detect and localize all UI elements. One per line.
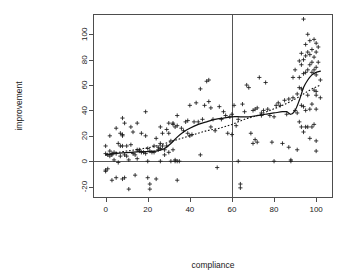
- x-tick-label: 60: [227, 205, 236, 214]
- y-axis-title: improvement: [14, 81, 24, 131]
- scatterplot-figure: 020406080100 -20020406080100 compliance …: [0, 0, 347, 280]
- y-tick-label: 20: [80, 131, 89, 140]
- plot-canvas: 020406080100 -20020406080100 compliance …: [0, 0, 347, 280]
- x-tick-label: 100: [309, 205, 323, 214]
- y-tick-label: 0: [80, 158, 89, 163]
- x-tick-label: 40: [185, 205, 194, 214]
- y-tick-label: 100: [80, 27, 89, 41]
- y-tick-label: 60: [80, 80, 89, 89]
- y-tick-label: 40: [80, 105, 89, 114]
- y-tick-label: -20: [80, 180, 89, 192]
- x-tick-label: 20: [143, 205, 152, 214]
- x-tick-label: 80: [270, 205, 279, 214]
- x-tick-label: 0: [103, 205, 108, 214]
- x-axis-title: compliance: [192, 260, 235, 270]
- y-tick-label: 80: [80, 55, 89, 64]
